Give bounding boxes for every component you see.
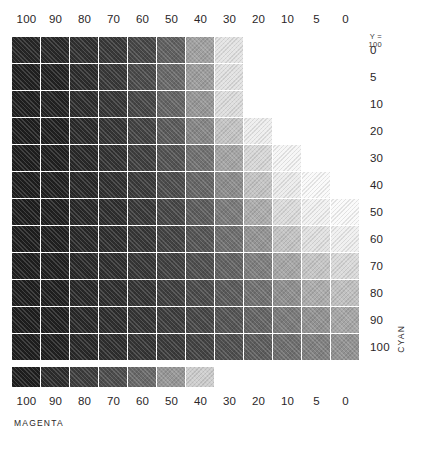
halftone-texture: [41, 307, 69, 333]
halftone-texture: [244, 280, 272, 306]
strip-patch-m10: [273, 367, 301, 387]
column-label-top-9: 10: [273, 10, 302, 28]
row-label-10: 10: [368, 91, 402, 118]
patch-c20-m30: [215, 118, 243, 144]
patch-c100-m60: [128, 334, 156, 360]
patch-c10-m70: [99, 91, 127, 117]
patch-c60-m20: [244, 226, 272, 252]
patch-c40-m80: [70, 172, 98, 198]
patch-c70-m10: [273, 253, 301, 279]
patch-c10-m50: [157, 91, 185, 117]
halftone-texture: [128, 334, 156, 360]
patch-grid: [12, 37, 360, 359]
column-label-top-11: 0: [331, 10, 360, 28]
patch-c10-m20: [244, 91, 272, 117]
patch-c60-m5: [302, 226, 330, 252]
halftone-texture: [186, 253, 214, 279]
patch-c60-m0: [331, 226, 359, 252]
halftone-texture: [302, 253, 330, 279]
halftone-texture: [273, 280, 301, 306]
halftone-texture: [99, 253, 127, 279]
halftone-texture: [273, 334, 301, 360]
patch-c40-m0: [331, 172, 359, 198]
halftone-texture: [215, 280, 243, 306]
halftone-texture: [70, 226, 98, 252]
halftone-texture: [41, 37, 69, 63]
column-label-bottom-9: 10: [273, 392, 302, 410]
halftone-texture: [273, 172, 301, 198]
halftone-texture: [128, 118, 156, 144]
halftone-texture: [128, 307, 156, 333]
patch-c5-m40: [186, 64, 214, 90]
patch-row: [12, 253, 360, 280]
patch-c50-m60: [128, 199, 156, 225]
halftone-texture: [41, 253, 69, 279]
patch-c90-m0: [331, 307, 359, 333]
strip-patch-m90: [41, 367, 69, 387]
patch-c10-m10: [273, 91, 301, 117]
strip-patch-m40: [186, 367, 214, 387]
patch-c90-m50: [157, 307, 185, 333]
patch-row: [12, 172, 360, 199]
patch-c100-m30: [215, 334, 243, 360]
halftone-texture: [186, 199, 214, 225]
patch-c80-m80: [70, 280, 98, 306]
halftone-texture: [128, 280, 156, 306]
halftone-texture: [186, 226, 214, 252]
halftone-texture: [215, 253, 243, 279]
row-label-30: 30: [368, 145, 402, 172]
halftone-texture: [12, 91, 40, 117]
patch-c60-m40: [186, 226, 214, 252]
halftone-texture: [99, 118, 127, 144]
patch-c70-m50: [157, 253, 185, 279]
patch-c0-m0: [331, 37, 359, 63]
column-label-bottom-6: 40: [186, 392, 215, 410]
patch-c30-m60: [128, 145, 156, 171]
column-label-top-4: 60: [128, 10, 157, 28]
halftone-texture: [157, 280, 185, 306]
patch-row: [12, 280, 360, 307]
halftone-texture: [273, 226, 301, 252]
halftone-texture: [70, 307, 98, 333]
patch-c100-m70: [99, 334, 127, 360]
halftone-texture: [70, 37, 98, 63]
patch-c40-m100: [12, 172, 40, 198]
halftone-texture: [273, 199, 301, 225]
patch-c80-m100: [12, 280, 40, 306]
patch-c40-m30: [215, 172, 243, 198]
column-label-top-8: 20: [244, 10, 273, 28]
halftone-texture: [244, 118, 272, 144]
halftone-texture: [157, 307, 185, 333]
column-label-bottom-7: 30: [215, 392, 244, 410]
x-axis-title: MAGENTA: [14, 418, 64, 428]
patch-c30-m20: [244, 145, 272, 171]
patch-c5-m0: [331, 64, 359, 90]
patch-c90-m90: [41, 307, 69, 333]
halftone-texture: [157, 367, 185, 387]
patch-c90-m30: [215, 307, 243, 333]
patch-c30-m40: [186, 145, 214, 171]
patch-c5-m80: [70, 64, 98, 90]
patch-c0-m10: [273, 37, 301, 63]
halftone-texture: [157, 253, 185, 279]
halftone-texture: [244, 226, 272, 252]
halftone-texture: [302, 199, 330, 225]
column-label-bottom-1: 90: [41, 392, 70, 410]
halftone-texture: [99, 145, 127, 171]
patch-c10-m60: [128, 91, 156, 117]
halftone-texture: [99, 64, 127, 90]
patch-c30-m30: [215, 145, 243, 171]
patch-c50-m0: [331, 199, 359, 225]
halftone-texture: [70, 64, 98, 90]
halftone-texture: [128, 145, 156, 171]
halftone-texture: [12, 334, 40, 360]
patch-c90-m20: [244, 307, 272, 333]
halftone-texture: [244, 172, 272, 198]
patch-c60-m90: [41, 226, 69, 252]
patch-c30-m50: [157, 145, 185, 171]
magenta-only-strip: [12, 367, 360, 387]
patch-row: [12, 226, 360, 253]
halftone-texture: [128, 226, 156, 252]
halftone-texture: [41, 199, 69, 225]
patch-c20-m90: [41, 118, 69, 144]
